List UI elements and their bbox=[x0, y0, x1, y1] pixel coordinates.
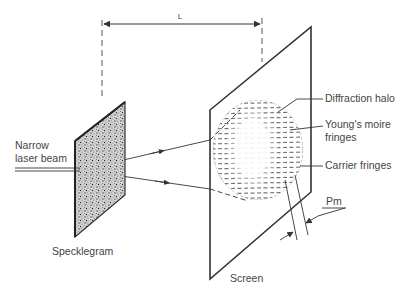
beam-label-line1: Narrow bbox=[15, 139, 49, 151]
carrier-label: Carrier fringes bbox=[325, 159, 392, 171]
screen-label: Screen bbox=[230, 272, 263, 284]
pitch-label: Pm bbox=[326, 195, 342, 207]
halo-label: Diffraction halo bbox=[325, 92, 395, 104]
beam-label-line2: laser beam bbox=[15, 152, 67, 164]
laser-beam bbox=[15, 168, 80, 171]
specklegram bbox=[75, 102, 125, 237]
upper-beam-arrow bbox=[150, 151, 162, 154]
distance-label: L bbox=[178, 12, 183, 21]
distance-dimension: L bbox=[102, 12, 262, 98]
youngs-label-line1: Young's moire bbox=[325, 118, 391, 130]
lower-beam-arrow bbox=[155, 181, 167, 183]
specklegram-label: Specklegram bbox=[52, 245, 114, 257]
specklegram-diffraction-diagram: L bbox=[0, 0, 403, 295]
youngs-label-line2: fringes bbox=[325, 131, 357, 143]
pitch-arrow-right bbox=[306, 216, 318, 223]
pitch-arrow-left bbox=[280, 232, 293, 240]
